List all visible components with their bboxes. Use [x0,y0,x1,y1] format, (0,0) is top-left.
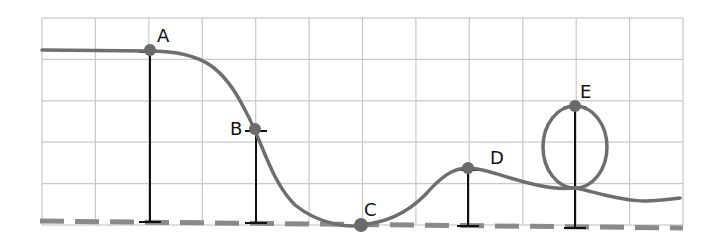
height-marker-a [139,52,161,222]
roller-coaster-diagram: A B C D E [0,0,710,239]
point-d [462,162,474,174]
label-c: C [364,199,377,220]
height-marker-d [457,170,479,226]
label-d: D [490,147,504,168]
grid [42,18,683,225]
point-a [144,44,156,56]
track [42,50,680,226]
point-c [354,218,368,232]
height-marker-b [245,131,267,223]
label-b: B [230,118,242,139]
label-a: A [157,25,170,46]
point-b [249,123,261,135]
height-marker-e [564,107,586,228]
label-e: E [580,81,591,102]
